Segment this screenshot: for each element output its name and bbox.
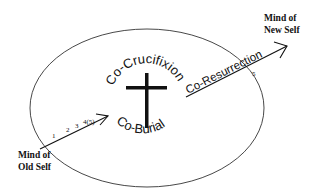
end-node-line2: New Self	[264, 25, 300, 35]
step-label-3: 3	[75, 122, 79, 130]
co-crucifixion-diagram: Co-Crucifixion Co-Burial 1 2 3 4(5) Mind…	[0, 0, 327, 189]
step-label-1: 1	[52, 132, 56, 140]
end-node-line1: Mind of	[264, 13, 297, 23]
start-node-line1: Mind of	[18, 150, 51, 160]
step-label-2: 2	[66, 126, 70, 134]
step-label-4-5: 4(5)	[83, 118, 95, 126]
entry-arrow	[40, 114, 108, 149]
co-burial-label: Co-Burial	[114, 113, 168, 137]
start-node-line2: Old Self	[18, 162, 52, 172]
step-label-5: 5	[252, 70, 256, 78]
